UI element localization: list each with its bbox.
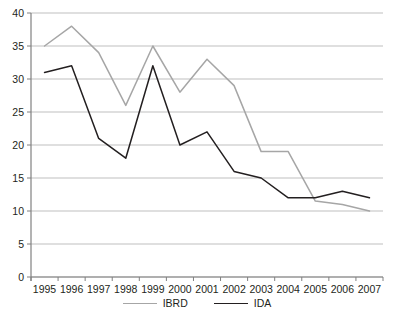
- y-axis-tick-label: 20: [0, 140, 24, 151]
- y-axis-tick-label: 35: [0, 41, 24, 52]
- legend-label-ibrd: IBRD: [163, 298, 188, 309]
- chart-legend: IBRD IDA: [0, 298, 394, 309]
- y-axis-tick-label: 25: [0, 107, 24, 118]
- legend-swatch-ida: [214, 303, 248, 304]
- y-axis-tick-label: 10: [0, 206, 24, 217]
- legend-swatch-ibrd: [123, 303, 157, 304]
- y-axis-tick-label: 0: [0, 272, 24, 283]
- y-axis-tick-label: 30: [0, 74, 24, 85]
- series-line-ibrd: [45, 26, 370, 211]
- x-axis-tick-label: 2007: [352, 284, 386, 295]
- gridlines: [31, 13, 383, 277]
- legend-label-ida: IDA: [254, 298, 272, 309]
- legend-item-ida: IDA: [214, 298, 272, 309]
- line-chart: 4035302520151050 19951996199719981999200…: [0, 0, 394, 318]
- data-series-lines: [45, 26, 370, 211]
- y-axis-tick-label: 40: [0, 8, 24, 19]
- y-axis-tick-label: 5: [0, 239, 24, 250]
- legend-item-ibrd: IBRD: [123, 298, 188, 309]
- y-axis-tick-label: 15: [0, 173, 24, 184]
- chart-plot-area: [0, 0, 394, 318]
